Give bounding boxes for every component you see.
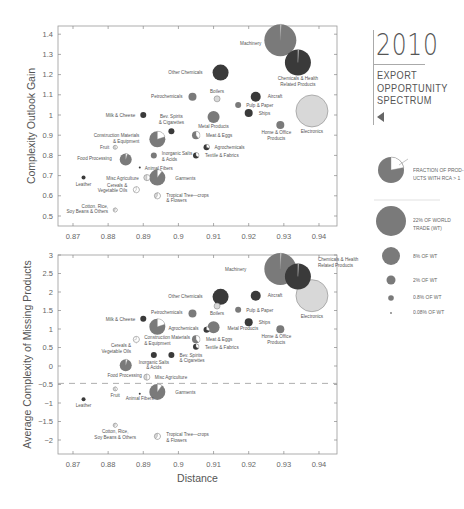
- legend-size-circle: [390, 312, 392, 314]
- bubble-label: Food Processing: [107, 373, 142, 378]
- bubble-label: Garments: [175, 390, 196, 395]
- bubble-label: Boilers: [210, 311, 225, 316]
- bubble-point: [214, 96, 220, 102]
- y-tick-label: 0.5: [43, 212, 53, 221]
- left-arrow-icon[interactable]: [377, 112, 384, 122]
- bubble-point: [188, 93, 196, 101]
- legend-size-circle: [387, 276, 396, 285]
- year-title: 2010: [376, 30, 439, 60]
- y-tick-label: 0: [49, 362, 53, 371]
- bubble-label: Animal Fibers: [145, 166, 174, 171]
- bubble-label: Animal Fibers: [126, 396, 155, 401]
- bubble-point: [113, 208, 117, 212]
- bubble-label: Machinery: [240, 41, 262, 46]
- bubble-label: Cereals &Vegetable Oils: [98, 183, 128, 194]
- bubble-point: [151, 152, 157, 158]
- subtitle-line: EXPORT: [377, 69, 448, 82]
- bubble-point: [149, 319, 165, 335]
- bubble-point: [139, 167, 141, 169]
- bubble-point: [151, 352, 157, 358]
- x-tick-label: 0.93: [277, 460, 292, 469]
- bubble-point: [144, 374, 150, 380]
- bubble-point: [120, 153, 132, 165]
- legend-size-2pct: 2% OF WT: [413, 276, 437, 284]
- bubble-point: [168, 128, 174, 134]
- title-divider-vertical: [373, 30, 374, 125]
- bubble-label: Metal Products: [228, 326, 259, 331]
- bubble-point: [193, 344, 199, 350]
- bubble-point: [113, 145, 117, 149]
- bubble-label: Aircraft: [268, 293, 283, 298]
- bubble-point: [149, 131, 165, 147]
- y-tick-label: 1.3: [43, 50, 53, 59]
- y-axis-title: Average Complexity of Missing Products: [21, 260, 33, 448]
- chart-subtitle: EXPORT OPPORTUNITY SPECTRUM: [377, 69, 448, 107]
- bubble-point: [168, 352, 174, 358]
- bubble-label: Electronics: [301, 314, 324, 319]
- y-tick-label: 0.8: [43, 151, 53, 160]
- bubble-point: [154, 193, 160, 199]
- bubble-label: Fruit: [100, 145, 110, 150]
- bubble-label: Petrochemicals: [151, 94, 183, 99]
- bubble-label: Home & OfficeProducts: [261, 130, 291, 141]
- x-tick-label: 0.9: [173, 232, 183, 241]
- bubble-point: [113, 423, 117, 427]
- legend-size-circle: [382, 247, 400, 265]
- bubble-label: Misc Agriculture: [106, 176, 139, 181]
- y-tick-label: 0.9: [43, 131, 53, 140]
- missing-products-chart: 0.870.880.890.90.910.920.930.9432.521.51…: [21, 251, 359, 485]
- bubble-label: Electronics: [301, 129, 324, 134]
- bubble-label: Meat & Eggs: [206, 133, 233, 138]
- y-tick-label: 1: [49, 111, 53, 120]
- bubble-point: [214, 303, 220, 309]
- bubble-point: [140, 112, 146, 118]
- x-tick-label: 0.87: [66, 460, 81, 469]
- x-tick-label: 0.87: [66, 232, 81, 241]
- y-tick-label: 2.5: [43, 269, 53, 278]
- bubble-point: [276, 325, 284, 333]
- bubble-label: Milk & Cheese: [106, 113, 136, 118]
- bubble-label: Fruit: [111, 393, 121, 398]
- bubble-label: Leather: [76, 182, 92, 187]
- y-tick-label: 0.5: [43, 343, 53, 352]
- bubble-label: Milk & Cheese: [106, 317, 136, 322]
- bubble-label: Inorganic Salts& Acids: [162, 151, 193, 162]
- bubble-label: Bev. Spirits& Cigarettes: [179, 353, 205, 364]
- x-tick-label: 0.94: [312, 232, 327, 241]
- bubble-point: [204, 327, 210, 333]
- y-tick-label: 1.4: [43, 30, 53, 39]
- y-tick-label: 0.6: [43, 191, 53, 200]
- bubble-label: Inorganic Salts& Acids: [139, 360, 170, 371]
- bubble-label: Other Chemicals: [168, 70, 203, 75]
- bubble-point: [82, 176, 86, 180]
- bubble-label: Pulp & Paper: [246, 103, 274, 108]
- bubble-label: Leather: [76, 403, 92, 408]
- bubble-label: Home & OfficeProducts: [261, 334, 291, 345]
- bubble-point: [213, 65, 229, 81]
- y-tick-label: 0.7: [43, 171, 53, 180]
- legend-size-22pct: 22% OF WORLD TRADE (WT): [413, 216, 451, 232]
- bubble-label: Tropical Tree—crops& Flowers: [166, 193, 209, 204]
- bubble-point: [120, 359, 132, 371]
- legend-size-circle: [388, 295, 394, 301]
- bubble-label: Metal Products: [198, 124, 229, 129]
- y-tick-label: −2: [44, 436, 53, 445]
- title-divider-horizontal: [373, 64, 425, 65]
- bubble-point: [192, 131, 200, 139]
- bubble-label: Boilers: [210, 89, 225, 94]
- x-axis-title: Distance: [177, 472, 218, 484]
- bubble-label: Cotton, Rice,Soy Beans & Others: [67, 204, 109, 215]
- x-tick-label: 0.88: [101, 232, 116, 241]
- x-tick-label: 0.92: [241, 460, 256, 469]
- bubble-point: [235, 307, 241, 313]
- bubble-point: [251, 291, 261, 301]
- bubble-label: Ships: [259, 320, 271, 325]
- y-tick-label: 1.5: [43, 306, 53, 315]
- bubble-point: [245, 109, 253, 117]
- bubble-label: Agrochemicals: [215, 145, 246, 150]
- bubble-point: [113, 387, 117, 391]
- bubble-point: [285, 49, 311, 75]
- bubble-label: Aircraft: [268, 94, 283, 99]
- x-tick-label: 0.89: [136, 460, 151, 469]
- complexity-outlook-chart: 0.870.880.890.90.910.920.930.940.50.60.7…: [25, 24, 337, 241]
